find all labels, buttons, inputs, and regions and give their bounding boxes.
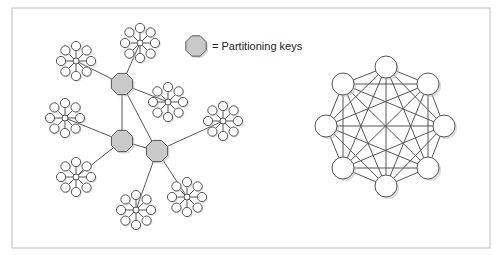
- satellite-node: [167, 192, 176, 201]
- satellite-node: [208, 106, 217, 115]
- satellite-node: [208, 127, 217, 136]
- hub-node: [73, 58, 79, 64]
- satellite-node: [146, 49, 155, 58]
- satellite-node: [218, 101, 227, 110]
- hub-node: [184, 194, 190, 200]
- satellite-node: [50, 103, 59, 112]
- satellite-node: [233, 116, 242, 125]
- satellite-node: [56, 172, 65, 181]
- star-cluster: [56, 157, 96, 197]
- satellite-node: [178, 97, 187, 106]
- satellite-node: [82, 162, 91, 171]
- mesh-node: [375, 175, 397, 197]
- satellite-node: [163, 82, 172, 91]
- satellite-node: [142, 216, 151, 225]
- satellite-node: [71, 157, 80, 166]
- satellite-node: [120, 38, 129, 47]
- satellite-node: [71, 71, 80, 80]
- star-cluster: [56, 41, 96, 81]
- satellite-node: [229, 106, 238, 115]
- satellite-node: [82, 46, 91, 55]
- star-cluster: [148, 82, 188, 122]
- satellite-node: [131, 220, 140, 229]
- satellite-node: [75, 113, 84, 122]
- star-cluster: [116, 190, 156, 230]
- partitioning-key-node: [146, 140, 167, 161]
- satellite-node: [60, 128, 69, 137]
- star-cluster: [203, 101, 243, 141]
- satellite-node: [218, 131, 227, 140]
- hub-node: [133, 207, 139, 213]
- satellite-node: [60, 98, 69, 107]
- satellite-node: [193, 203, 202, 212]
- mesh-node: [417, 73, 439, 95]
- satellite-node: [172, 203, 181, 212]
- legend-label: = Partitioning keys: [212, 40, 303, 52]
- satellite-node: [121, 195, 130, 204]
- satellite-node: [153, 108, 162, 117]
- satellite-node: [121, 216, 130, 225]
- satellite-node: [86, 56, 95, 65]
- satellite-node: [71, 103, 80, 112]
- satellite-node: [153, 87, 162, 96]
- diagram-canvas: = Partitioning keys: [0, 0, 498, 255]
- satellite-node: [116, 205, 125, 214]
- satellite-node: [229, 127, 238, 136]
- satellite-node: [163, 112, 172, 121]
- mesh-node: [375, 56, 397, 78]
- satellite-node: [61, 183, 70, 192]
- satellite-node: [86, 172, 95, 181]
- satellite-node: [197, 192, 206, 201]
- mesh-node: [315, 115, 337, 137]
- mesh-node: [332, 157, 354, 179]
- satellite-node: [82, 183, 91, 192]
- satellite-node: [61, 46, 70, 55]
- mesh-node: [433, 115, 455, 137]
- satellite-node: [61, 67, 70, 76]
- satellite-node: [146, 205, 155, 214]
- satellite-node: [182, 177, 191, 186]
- satellite-node: [142, 195, 151, 204]
- partitioning-key-node: [111, 73, 132, 94]
- satellite-node: [174, 108, 183, 117]
- hub-node: [165, 99, 171, 105]
- satellite-node: [50, 124, 59, 133]
- satellite-node: [45, 113, 54, 122]
- satellite-node: [125, 28, 134, 37]
- star-cluster: [45, 98, 85, 138]
- satellite-node: [82, 67, 91, 76]
- hub-node: [73, 174, 79, 180]
- satellite-node: [193, 182, 202, 191]
- satellite-node: [71, 124, 80, 133]
- satellite-node: [150, 38, 159, 47]
- partitioning-key-node: [111, 130, 132, 151]
- satellite-node: [174, 87, 183, 96]
- satellite-node: [203, 116, 212, 125]
- satellite-node: [172, 182, 181, 191]
- mesh-node: [417, 157, 439, 179]
- satellite-node: [182, 207, 191, 216]
- hub-node: [137, 40, 143, 46]
- satellite-node: [146, 28, 155, 37]
- satellite-node: [135, 23, 144, 32]
- satellite-node: [135, 53, 144, 62]
- satellite-node: [61, 162, 70, 171]
- star-cluster: [167, 177, 207, 217]
- satellite-node: [148, 97, 157, 106]
- satellite-node: [71, 187, 80, 196]
- star-cluster: [120, 23, 160, 63]
- hub-node: [220, 118, 226, 124]
- satellite-node: [125, 49, 134, 58]
- satellite-node: [131, 190, 140, 199]
- mesh-node: [332, 73, 354, 95]
- hub-node: [62, 115, 68, 121]
- satellite-node: [56, 56, 65, 65]
- satellite-node: [71, 41, 80, 50]
